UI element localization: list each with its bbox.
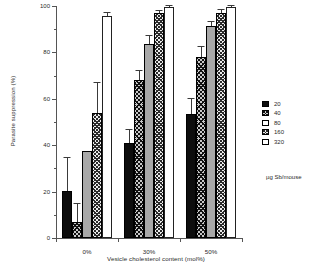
y-tick-major: [52, 52, 56, 53]
y-tick-minor: [54, 122, 57, 123]
error-bar: [139, 71, 140, 80]
error-bar-cap: [74, 203, 81, 204]
y-axis-title: Parasite suppression (%): [10, 51, 16, 171]
y-axis-line: [56, 6, 57, 238]
legend-item: 160: [262, 128, 284, 137]
error-bar: [97, 83, 98, 113]
bar: [186, 114, 195, 238]
error-bar: [107, 13, 108, 15]
bar-chart-figure: Parasite suppression (%) 020406080100 0%…: [0, 0, 312, 267]
error-bar: [169, 6, 170, 7]
bar: [196, 57, 205, 238]
y-tick-label: 20: [43, 189, 50, 195]
error-bar-cap: [228, 5, 235, 6]
plot-area: 020406080100 0%30%50%: [56, 6, 242, 238]
y-tick-minor: [54, 29, 57, 30]
x-axis-title: Vesicle cholesterol content (mol%): [0, 255, 312, 262]
x-tick: [118, 238, 119, 242]
x-tick-label: 30%: [143, 248, 155, 255]
bar: [134, 80, 143, 238]
legend-item: 40: [262, 109, 284, 118]
error-bar-cap: [208, 21, 215, 22]
legend-item: 20: [262, 99, 284, 108]
legend-swatch: [262, 129, 269, 135]
bar: [124, 143, 133, 238]
y-tick-label: 40: [43, 142, 50, 148]
error-bar-cap: [166, 5, 173, 6]
error-bar-cap: [156, 10, 163, 11]
legend-swatch: [262, 110, 269, 116]
y-tick-label: 60: [43, 96, 50, 102]
error-bar-cap: [198, 46, 205, 47]
error-bar: [67, 158, 68, 190]
bar: [144, 44, 153, 238]
y-tick-major: [52, 6, 56, 7]
y-tick-label: 100: [40, 3, 50, 9]
error-bar-cap: [104, 12, 111, 13]
error-bar: [149, 36, 150, 44]
x-axis-line: [52, 238, 242, 239]
error-bar: [191, 99, 192, 114]
error-bar-cap: [146, 35, 153, 36]
error-bar: [77, 204, 78, 221]
bar: [62, 191, 71, 238]
bar: [164, 7, 173, 238]
legend-item: 320: [262, 137, 284, 146]
bar: [216, 13, 225, 239]
error-bar-cap: [188, 98, 195, 99]
x-tick: [180, 238, 181, 242]
y-tick-label: 0: [47, 235, 50, 241]
legend-item: 80: [262, 118, 284, 127]
error-bar: [231, 6, 232, 7]
legend-swatch: [262, 139, 269, 145]
legend-title: µg Sb/mouse: [266, 174, 301, 180]
y-tick-label: 80: [43, 49, 50, 55]
x-tick: [56, 238, 57, 242]
y-tick-major: [52, 99, 56, 100]
x-tick: [242, 238, 243, 242]
y-tick-minor: [54, 215, 57, 216]
error-bar: [201, 47, 202, 57]
legend: 204080160320: [262, 99, 284, 147]
bar: [226, 7, 235, 238]
legend-swatch: [262, 101, 269, 107]
legend-label: 40: [274, 110, 281, 116]
error-bar-cap: [126, 129, 133, 130]
legend-swatch: [262, 120, 269, 126]
legend-label: 160: [274, 129, 284, 135]
y-tick-major: [52, 145, 56, 146]
bar: [92, 113, 101, 238]
error-bar: [129, 130, 130, 143]
bar: [72, 222, 81, 238]
error-bar: [221, 10, 222, 12]
bar: [206, 26, 215, 238]
error-bar-cap: [136, 70, 143, 71]
x-tick-label: 0%: [83, 248, 92, 255]
error-bar: [159, 11, 160, 13]
y-tick-major: [52, 192, 56, 193]
legend-label: 320: [274, 139, 284, 145]
bar: [154, 13, 163, 238]
error-bar-cap: [64, 157, 71, 158]
legend-label: 20: [274, 101, 281, 107]
y-tick-minor: [54, 76, 57, 77]
y-tick-minor: [54, 168, 57, 169]
error-bar: [211, 22, 212, 26]
x-tick-label: 50%: [205, 248, 217, 255]
bar: [102, 16, 111, 238]
error-bar-cap: [94, 82, 101, 83]
bar: [82, 151, 91, 238]
legend-label: 80: [274, 120, 281, 126]
error-bar-cap: [218, 9, 225, 10]
